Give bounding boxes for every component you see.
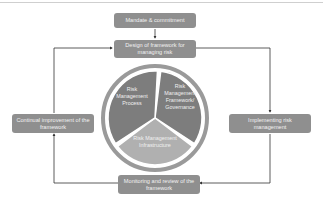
box-continual: Continual improvement of the framework <box>12 114 94 133</box>
box-implementing: Implementing risk management <box>229 114 311 133</box>
diagram-canvas: RiskManagementFramework/GovernanceRisk M… <box>0 0 323 204</box>
box-mandate: Mandate & commitment <box>114 13 196 28</box>
arrow-implementing-to-monitoring <box>200 134 270 183</box>
box-monitoring: Monitoring and review of the framework <box>118 175 200 194</box>
segment-infrastructure-label: Risk ManagementInfrastructure <box>133 135 177 148</box>
arrow-design-to-implementing <box>196 48 270 112</box>
box-design: Design of framework for managing risk <box>114 40 196 58</box>
